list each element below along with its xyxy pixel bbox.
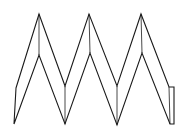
fold-crease-line xyxy=(141,14,142,53)
fold-crease-line xyxy=(89,14,90,53)
fold-crease-line xyxy=(169,87,170,124)
zigzag-fold-diagram xyxy=(0,0,184,132)
strip-outline xyxy=(14,14,174,125)
